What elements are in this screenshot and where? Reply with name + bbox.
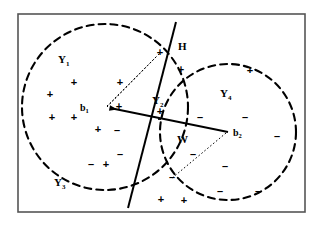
marker-plus: + (71, 76, 77, 88)
marker-plus: + (158, 193, 164, 205)
marker-plus: + (178, 63, 184, 75)
marker-minus: – (242, 111, 248, 123)
marker-plus: + (71, 111, 77, 123)
marker-plus-support: + (157, 46, 163, 58)
marker-plus: + (116, 100, 122, 112)
marker-minus: – (197, 111, 203, 123)
marker-minus: – (117, 148, 123, 160)
marker-minus-support: – (169, 171, 175, 183)
marker-plus: + (103, 158, 109, 170)
marker-minus: – (217, 185, 223, 197)
marker-minus: – (88, 158, 94, 170)
marker-plus: + (47, 88, 53, 100)
hyperplane-label-H: H (178, 40, 187, 52)
marker-plus: + (49, 111, 55, 123)
marker-minus: – (109, 183, 115, 195)
marker-plus: + (117, 76, 123, 88)
marker-minus: – (190, 148, 196, 160)
marker-plus: + (95, 123, 101, 135)
marker-minus: – (255, 185, 261, 197)
hypersphere-diagram: + + + + + + + + + + + + + + – – – – – – … (0, 0, 326, 230)
weight-vector-label-W: W (177, 133, 188, 145)
marker-plus: + (247, 64, 253, 76)
figure-root: + + + + + + + + + + + + + + – – – – – – … (0, 0, 326, 230)
marker-minus: – (222, 160, 228, 172)
marker-plus: + (181, 194, 187, 206)
marker-minus: – (114, 124, 120, 136)
marker-minus: – (274, 130, 280, 142)
